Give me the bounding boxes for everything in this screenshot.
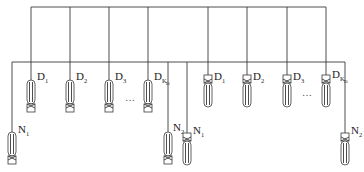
left-d2-element: D2 [66, 70, 87, 112]
svg-text:3: 3 [301, 77, 304, 84]
right-d2-element: D2 [243, 70, 264, 107]
antenna-diagram: D1 D2 D3 … DKD D1 D [0, 0, 364, 172]
svg-text:1: 1 [26, 130, 29, 137]
left-n2-element: N2 [164, 121, 184, 164]
left-ellipsis: … [125, 92, 135, 103]
svg-text:D: D [76, 70, 84, 82]
svg-text:3: 3 [123, 77, 126, 84]
svg-text:D: D [344, 79, 348, 84]
right-n1-element: N1 [183, 124, 204, 165]
right-d1-element: D1 [204, 70, 225, 107]
svg-text:2: 2 [261, 77, 264, 84]
svg-text:2: 2 [84, 77, 87, 84]
svg-text:D: D [214, 70, 222, 82]
svg-text:1: 1 [45, 77, 48, 84]
right-ellipsis: … [302, 87, 312, 98]
right-n2-element: N2 [341, 124, 362, 165]
svg-text:D: D [253, 70, 261, 82]
svg-text:D: D [293, 70, 301, 82]
svg-text:N: N [18, 123, 26, 135]
svg-text:D: D [37, 70, 45, 82]
svg-text:1: 1 [222, 77, 225, 84]
left-d3-element: D3 [105, 70, 126, 112]
svg-text:N: N [193, 124, 201, 136]
left-n1-element: N1 [8, 123, 29, 164]
svg-text:1: 1 [201, 131, 204, 138]
svg-text:D: D [332, 68, 340, 80]
svg-text:N: N [173, 121, 181, 133]
left-d1-element: D1 [27, 70, 48, 112]
svg-text:N: N [351, 124, 359, 136]
svg-text:D: D [154, 70, 162, 82]
svg-text:D: D [115, 70, 123, 82]
svg-text:D: D [166, 81, 170, 86]
svg-text:2: 2 [359, 131, 362, 138]
